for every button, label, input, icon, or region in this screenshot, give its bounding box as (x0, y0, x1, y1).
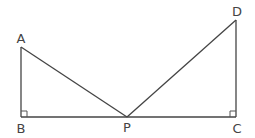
point-label-c: C (232, 121, 241, 136)
segment-pd (127, 20, 236, 117)
geometry-diagram: A B P C D (0, 0, 255, 138)
point-label-d: D (232, 4, 242, 19)
right-angle-marker-b (21, 111, 27, 117)
point-label-p: P (123, 120, 131, 135)
point-label-a: A (17, 31, 26, 46)
segment-ap (21, 47, 127, 117)
right-angle-marker-c (230, 111, 236, 117)
point-label-b: B (17, 121, 26, 136)
